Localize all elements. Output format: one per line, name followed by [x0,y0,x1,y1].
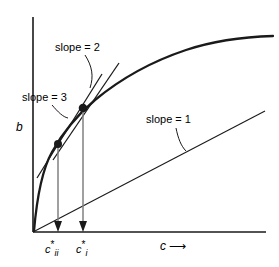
tangency-point-c-star-ii [54,140,62,148]
plot-canvas [0,0,279,267]
slope-1-label: slope = 1 [146,114,191,125]
y-axis-label: b [16,121,23,133]
tick-label-c-star-i: c*i [76,240,87,258]
dropline-arrowhead-c-star-i [79,221,87,232]
slope-2-label: slope = 2 [55,42,100,53]
x-axis-label: c [160,240,166,252]
benefit-curve [34,36,273,231]
tick-subscript-c-i: i [85,248,87,258]
x-axis-label-row: c ⟶ [160,240,186,252]
tangent-line-slope-2 [53,63,119,160]
dropline-arrowhead-c-star-ii [54,221,62,232]
x-axis-label-group: c ⟶ [160,240,186,252]
tick-label-c-star-ii: c*ii [45,240,58,258]
x-axis-arrow-icon: ⟶ [169,240,186,252]
leader-line-slope-1 [176,128,186,151]
tangency-point-c-star-i [79,104,88,113]
leader-line-slope-2 [85,55,92,88]
tangent-line-slope-3 [37,74,102,178]
slope-3-label: slope = 3 [22,92,67,103]
leader-line-slope-3 [52,105,68,118]
figure-container: b slope = 2 slope = 3 slope = 1 c*ii c*i… [0,0,279,267]
tick-subscript-c-ii: ii [54,248,58,258]
